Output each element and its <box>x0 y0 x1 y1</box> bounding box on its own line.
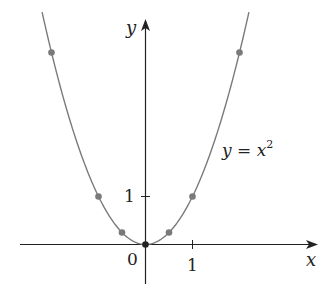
data-point <box>189 193 196 200</box>
data-point <box>236 49 243 56</box>
data-point <box>48 49 55 56</box>
x-axis-label: x <box>306 249 316 270</box>
y-axis-label: y <box>125 17 137 38</box>
data-point <box>119 229 126 236</box>
x-axis <box>20 240 318 249</box>
origin-label: 0 <box>127 249 138 269</box>
curve-equation-label: y = x2 <box>221 138 273 160</box>
parabola-chart: y x 0 1 1 y = x2 <box>0 0 336 290</box>
curve-equation-exponent: 2 <box>266 138 273 151</box>
y-tick-label-1: 1 <box>124 186 135 206</box>
data-point <box>142 241 149 248</box>
data-point <box>166 229 173 236</box>
x-tick-label-1: 1 <box>187 255 198 275</box>
data-point <box>95 193 102 200</box>
